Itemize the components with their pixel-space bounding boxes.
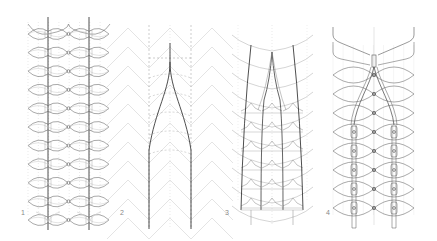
diagram-canvas bbox=[0, 0, 437, 241]
panel-label-1: 1 bbox=[21, 209, 25, 216]
panel-2-chevron-branch bbox=[107, 25, 233, 239]
panel-label-4: 4 bbox=[326, 209, 330, 216]
panel-3-converging-frame bbox=[232, 25, 313, 225]
panel-1-lattice bbox=[28, 17, 110, 230]
panel-4-branching-lattice bbox=[333, 27, 414, 228]
panel-label-3: 3 bbox=[225, 209, 229, 216]
panel-label-2: 2 bbox=[120, 209, 124, 216]
